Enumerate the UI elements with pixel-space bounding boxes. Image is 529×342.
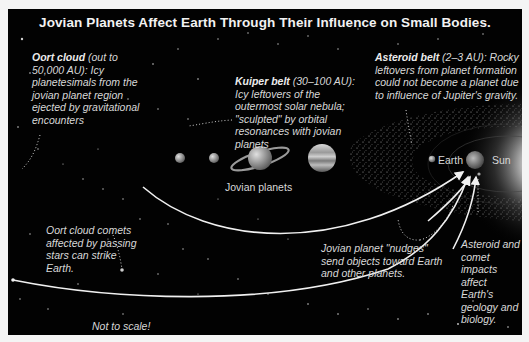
mars <box>429 156 435 162</box>
moon <box>477 172 480 175</box>
kuiper-belt-heading: Kuiper belt <box>235 75 290 87</box>
nudges-caption: Jovian planet "nudges" send objects towa… <box>321 242 446 280</box>
earth <box>466 151 484 169</box>
earth-label: Earth <box>438 154 463 166</box>
asteroid-belt-caption: Asteroid belt (2–3 AU): Rocky leftovers … <box>375 51 521 101</box>
impacts-caption: Asteroid and comet impacts affect Earth'… <box>461 238 521 326</box>
kuiper-leader <box>188 120 232 126</box>
oort-cloud-caption: Oort cloud (out to 50,000 AU): Icy plane… <box>32 51 140 126</box>
not-to-scale-note: Not to scale! <box>92 320 150 333</box>
oort-leader <box>22 135 40 169</box>
nudges-leader-1 <box>398 219 420 240</box>
sun-label: Sun <box>492 154 511 166</box>
uranus <box>209 153 219 163</box>
neptune <box>175 153 185 163</box>
kuiper-belt-caption: Kuiper belt (30–100 AU): Icy leftovers o… <box>235 75 357 150</box>
diagram-title: Jovian Planets Affect Earth Through Thei… <box>8 15 522 30</box>
asteroid-belt-heading: Asteroid belt <box>375 51 439 63</box>
oort-comets-caption: Oort cloud comets affected by passing st… <box>46 224 141 274</box>
oort-cloud-heading: Oort cloud <box>32 51 85 63</box>
diagram-panel: Jovian Planets Affect Earth Through Thei… <box>8 9 522 335</box>
jovian-planets-label: Jovian planets <box>225 181 292 193</box>
